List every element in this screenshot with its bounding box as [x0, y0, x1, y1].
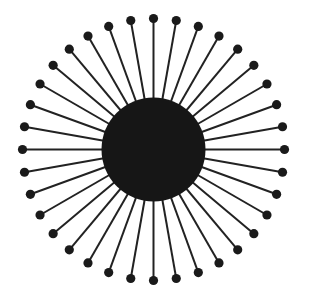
- spoke-tip-dot: [65, 245, 74, 254]
- spoke-tip-dot: [214, 258, 223, 267]
- spoke-tip-dot: [214, 31, 223, 40]
- spoke-tip-dot: [280, 145, 289, 154]
- spoke-tip-dot: [65, 45, 74, 54]
- spoke-tip-dot: [172, 274, 181, 283]
- spoke-tip-dot: [83, 31, 92, 40]
- spoke-tip-dot: [20, 168, 29, 177]
- spoke-tip-dot: [18, 145, 27, 154]
- spoke-tip-dot: [194, 22, 203, 31]
- spoke-tip-dot: [149, 276, 158, 285]
- spoke-tip-dot: [262, 210, 271, 219]
- spoke-tip-dot: [172, 16, 181, 25]
- spoke-tip-dot: [26, 100, 35, 109]
- spoke-tip-dot: [20, 122, 29, 131]
- spoke-tip-dot: [272, 100, 281, 109]
- spoke-tip-dot: [104, 22, 113, 31]
- spoke-tip-dot: [149, 14, 158, 23]
- spoke-tip-dot: [249, 229, 258, 238]
- spoke-tip-dot: [126, 16, 135, 25]
- spoke-tip-dot: [262, 79, 271, 88]
- spoke-tip-dot: [26, 190, 35, 199]
- spoke-tip-dot: [35, 210, 44, 219]
- spoke-tip-dot: [104, 268, 113, 277]
- core-circle: [102, 98, 206, 202]
- spoke-tip-dot: [49, 61, 58, 70]
- spoke-tip-dot: [233, 45, 242, 54]
- spoke-tip-dot: [249, 61, 258, 70]
- spoke-tip-dot: [194, 268, 203, 277]
- spoke-tip-dot: [49, 229, 58, 238]
- spoke-tip-dot: [35, 79, 44, 88]
- spoke-tip-dot: [278, 168, 287, 177]
- spoke-tip-dot: [272, 190, 281, 199]
- spoke-tip-dot: [233, 245, 242, 254]
- radial-spoke-diagram: [0, 0, 309, 295]
- spoke-tip-dot: [278, 122, 287, 131]
- spoke-tip-dot: [83, 258, 92, 267]
- spoke-tip-dot: [126, 274, 135, 283]
